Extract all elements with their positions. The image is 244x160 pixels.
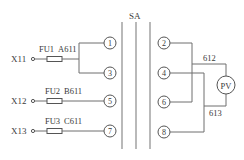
terminal-icon — [31, 57, 34, 60]
terminal-label-x13: X13 — [11, 126, 27, 136]
meter-label: PV — [221, 81, 233, 91]
wire-label-612: 612 — [203, 53, 216, 63]
svg-text:7: 7 — [108, 127, 112, 136]
svg-text:5: 5 — [108, 97, 112, 106]
terminal-label-x11: X11 — [11, 54, 26, 64]
wiring-diagram: SA X11 FU1 A611 X12 FU2 B611 X13 FU3 C61… — [0, 0, 244, 160]
fuse-label-fu2: FU2 — [45, 86, 60, 96]
input-x12: X12 FU2 B611 — [11, 86, 104, 106]
fuse-label-fu3: FU3 — [45, 116, 60, 126]
fuse-icon — [47, 99, 62, 104]
svg-text:6: 6 — [162, 98, 166, 107]
svg-text:3: 3 — [108, 69, 112, 78]
switch-label: SA — [129, 11, 141, 21]
svg-text:2: 2 — [162, 39, 166, 48]
meter-wiring: 612 613 PV — [170, 43, 235, 132]
input-x13: X13 FU3 C611 — [11, 116, 104, 136]
wire-label-613: 613 — [209, 108, 222, 118]
fuse-icon — [47, 129, 62, 134]
wire-label-a611: A611 — [58, 44, 77, 54]
terminal-icon — [31, 99, 34, 102]
input-x11: X11 FU1 A611 — [11, 43, 104, 73]
fuse-label-fu1: FU1 — [39, 44, 54, 54]
right-contacts: 2 4 6 8 — [158, 37, 170, 138]
fuse-icon — [47, 57, 62, 62]
terminal-label-x12: X12 — [11, 96, 27, 106]
svg-text:1: 1 — [108, 39, 112, 48]
svg-text:8: 8 — [162, 128, 166, 137]
wire-label-b611: B611 — [64, 86, 82, 96]
switch-sa: SA — [122, 11, 150, 149]
svg-text:4: 4 — [162, 69, 166, 78]
wire-label-c611: C611 — [64, 116, 82, 126]
left-contacts: 1 3 5 7 — [104, 37, 116, 137]
terminal-icon — [31, 129, 34, 132]
